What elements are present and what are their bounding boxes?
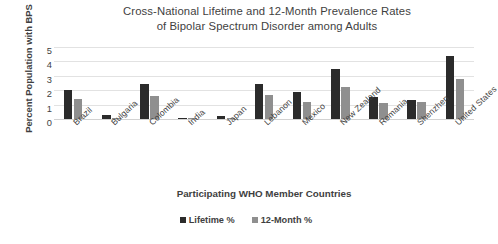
chart-title: Cross-National Lifetime and 12-Month Pre… — [62, 4, 472, 34]
bar-group — [178, 47, 197, 119]
y-tick-label: 4 — [38, 61, 52, 70]
bar — [140, 84, 149, 119]
x-axis-tick-labels: BrazilBulgariaColombiaIndiaJapanLebanonM… — [54, 120, 474, 182]
bar-group — [446, 47, 465, 119]
y-tick-label: 5 — [38, 47, 52, 56]
bar-group — [140, 47, 159, 119]
y-tick-label: 3 — [38, 76, 52, 85]
bar-group — [369, 47, 388, 119]
legend-swatch-icon — [252, 217, 258, 223]
y-tick-label: 2 — [38, 90, 52, 99]
bar-group — [102, 47, 121, 119]
bar-group — [407, 47, 426, 119]
y-tick-label: 1 — [38, 105, 52, 114]
bar-group — [255, 47, 274, 119]
y-axis-ticks: 543210 — [38, 42, 52, 126]
bar-group — [64, 47, 83, 119]
bar — [293, 92, 302, 119]
bar — [64, 90, 73, 119]
chart-legend: Lifetime %12-Month % — [0, 215, 492, 225]
bar-group — [331, 47, 350, 119]
y-axis-title: Percent Population with BPS — [23, 0, 34, 144]
chart-title-line-2: of Bipolar Spectrum Disorder among Adult… — [62, 19, 472, 34]
x-axis-title: Participating WHO Member Countries — [54, 188, 474, 199]
legend-swatch-icon — [180, 217, 186, 223]
bar-series-container — [54, 47, 474, 119]
legend-label: 12-Month % — [261, 215, 313, 225]
legend-label: Lifetime % — [189, 215, 235, 225]
plot-area — [54, 47, 474, 119]
bar — [331, 69, 340, 119]
bar-group — [293, 47, 312, 119]
legend-item[interactable]: 12-Month % — [252, 215, 313, 225]
bar — [446, 56, 455, 119]
legend-item[interactable]: Lifetime % — [180, 215, 235, 225]
y-tick-label: 0 — [38, 119, 52, 128]
chart-title-line-1: Cross-National Lifetime and 12-Month Pre… — [62, 4, 472, 19]
bar — [255, 84, 264, 119]
bar-group — [217, 47, 236, 119]
